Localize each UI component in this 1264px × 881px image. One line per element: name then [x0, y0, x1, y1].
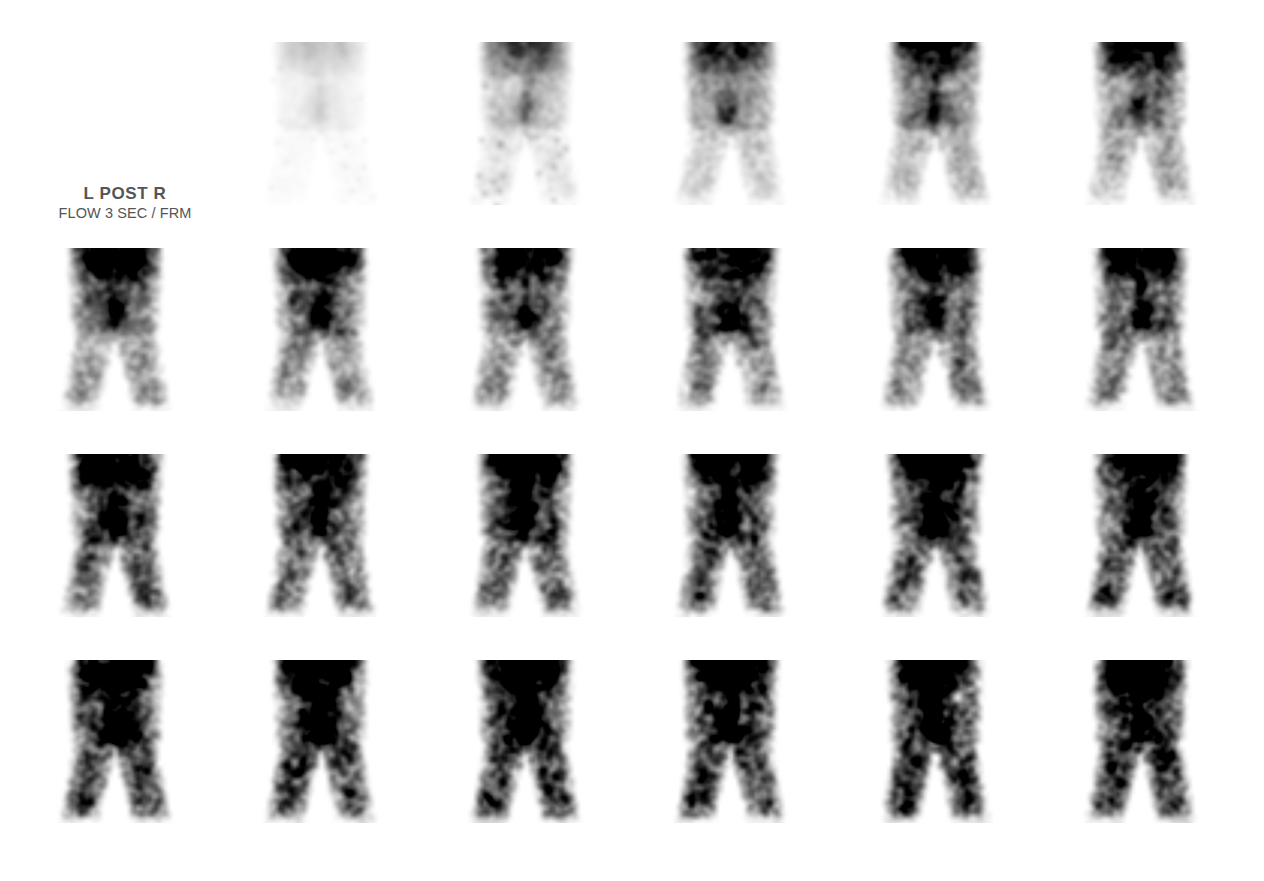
scan-frame-1: [260, 42, 380, 205]
scan-frame-image: [260, 42, 380, 205]
scan-frame-image: [465, 42, 585, 205]
scan-frame-20: [465, 660, 585, 823]
scan-frame-21: [670, 660, 790, 823]
scan-frame-2: [465, 42, 585, 205]
scan-frame-image: [465, 454, 585, 617]
scan-frame-8: [465, 248, 585, 411]
scan-frame-7: [260, 248, 380, 411]
orientation-label-text: L POST R: [40, 183, 210, 204]
scan-frame-17: [1080, 454, 1200, 617]
scan-frame-image: [670, 42, 790, 205]
scan-frame-15: [670, 454, 790, 617]
scan-frame-3: [670, 42, 790, 205]
scan-frame-11: [1080, 248, 1200, 411]
scan-frame-23: [1080, 660, 1200, 823]
scan-frame-9: [670, 248, 790, 411]
scan-frame-image: [1080, 42, 1200, 205]
scan-frame-image: [875, 454, 995, 617]
scan-frame-4: [875, 42, 995, 205]
scan-frame-image: [875, 42, 995, 205]
scan-frame-image: [465, 248, 585, 411]
scan-frame-image: [1080, 248, 1200, 411]
scan-frame-image: [55, 660, 175, 823]
scan-frame-19: [260, 660, 380, 823]
scintigraphy-study-sheet: L POST R FLOW 3 SEC / FRM: [0, 0, 1264, 881]
acquisition-rate-text: FLOW 3 SEC / FRM: [40, 204, 210, 223]
scan-frame-image: [260, 454, 380, 617]
scan-frame-5: [1080, 42, 1200, 205]
scan-frame-image: [260, 248, 380, 411]
orientation-annotation: L POST R FLOW 3 SEC / FRM: [40, 183, 210, 223]
scan-frame-14: [465, 454, 585, 617]
scan-frame-image: [670, 248, 790, 411]
scan-frame-12: [55, 454, 175, 617]
scan-frame-18: [55, 660, 175, 823]
scan-frame-image: [1080, 454, 1200, 617]
scan-frame-image: [670, 660, 790, 823]
scan-frame-13: [260, 454, 380, 617]
scan-frame-image: [1080, 660, 1200, 823]
scan-frame-image: [55, 454, 175, 617]
scan-frame-image: [875, 248, 995, 411]
scan-frame-image: [55, 248, 175, 411]
scan-frame-image: [260, 660, 380, 823]
scan-frame-image: [875, 660, 995, 823]
scan-frame-22: [875, 660, 995, 823]
scan-frame-image: [670, 454, 790, 617]
scan-frame-6: [55, 248, 175, 411]
scan-frame-10: [875, 248, 995, 411]
scan-frame-16: [875, 454, 995, 617]
scan-frame-image: [465, 660, 585, 823]
